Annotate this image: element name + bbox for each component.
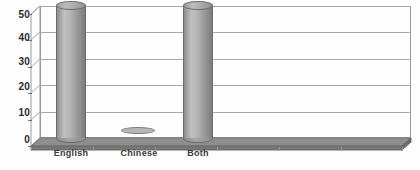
bar-english-cap: [56, 1, 86, 10]
bars-layer: [31, 6, 412, 146]
bar-both-cap: [183, 1, 213, 10]
x-tick-label-english: English: [54, 148, 89, 158]
bar-both[interactable]: [183, 6, 213, 138]
bar-chart: 50 40 30 20 10 0: [0, 0, 420, 170]
bar-english-body: [56, 6, 86, 138]
x-tick-label-both: Both: [187, 148, 209, 158]
bar-chinese-base: [121, 127, 155, 134]
x-tick-label-chinese: Chinese: [120, 148, 157, 158]
bar-both-body: [183, 6, 213, 138]
bar-english[interactable]: [56, 6, 86, 138]
x-axis: English Chinese Both: [0, 148, 420, 162]
